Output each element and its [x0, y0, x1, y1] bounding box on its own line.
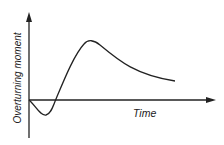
diagram-canvas: Time Overturning moment	[0, 0, 224, 145]
x-axis-arrow-icon	[206, 97, 216, 103]
x-axis-label: Time	[133, 107, 156, 119]
moment-curve	[29, 41, 175, 115]
y-axis-label: Overturning moment	[12, 31, 23, 123]
y-axis-arrow-icon	[26, 12, 32, 22]
